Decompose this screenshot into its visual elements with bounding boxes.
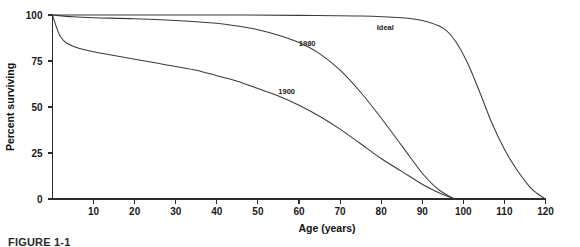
x-tick-label: 50 (252, 206, 264, 217)
x-axis-title: Age (years) (298, 222, 355, 234)
x-tick-label: 60 (293, 206, 305, 217)
curve-1900 (53, 15, 456, 199)
series-annotations: 19001980Ideal (278, 23, 393, 96)
x-tick-label: 120 (537, 206, 554, 217)
y-tick-label: 0 (37, 194, 43, 205)
x-tick-label: 110 (496, 206, 513, 217)
figure-caption: FIGURE 1-1 (8, 236, 71, 247)
y-tick-label: 100 (26, 10, 43, 21)
y-tick-label: 25 (31, 148, 43, 159)
x-axis-ticks: 102030405060708090100110120 (88, 199, 554, 217)
x-tick-label: 30 (170, 206, 182, 217)
x-tick-label: 40 (211, 206, 223, 217)
y-tick-label: 50 (31, 102, 43, 113)
x-tick-label: 100 (455, 206, 472, 217)
series-label-1980: 1980 (299, 39, 316, 48)
x-tick-label: 20 (129, 206, 141, 217)
series-label-ideal: Ideal (377, 23, 394, 32)
x-tick-label: 70 (335, 206, 347, 217)
curve-1980 (53, 15, 456, 199)
series-label-1900: 1900 (278, 87, 295, 96)
x-tick-label: 90 (417, 206, 429, 217)
survival-curve-chart: 0255075100 102030405060708090100110120 1… (0, 0, 580, 247)
figure-container: 0255075100 102030405060708090100110120 1… (0, 0, 580, 247)
x-tick-label: 10 (88, 206, 100, 217)
y-tick-label: 75 (31, 56, 43, 67)
y-axis-ticks: 0255075100 (26, 10, 53, 205)
y-axis-title: Percent surviving (4, 63, 16, 151)
x-tick-label: 80 (376, 206, 388, 217)
